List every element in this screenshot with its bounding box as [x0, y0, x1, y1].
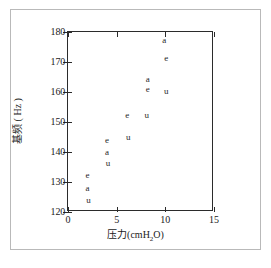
x-tick-label-0: 0 — [66, 215, 71, 225]
data-point-u-13: u — [164, 86, 169, 95]
y-tick-inner-140 — [68, 152, 72, 153]
x-tick-label-5: 5 — [114, 215, 119, 225]
data-point-a-1: a — [85, 184, 89, 193]
x-tick-0 — [68, 207, 69, 212]
x-tick-label-10: 10 — [160, 215, 170, 225]
x-tick-15 — [214, 207, 215, 212]
y-tick-label-150: 150 — [51, 117, 65, 127]
y-tick-label-140: 140 — [51, 147, 65, 157]
y-tick-inner-120 — [68, 212, 72, 213]
data-point-u-10: u — [145, 110, 150, 119]
x-tick-top-5 — [117, 32, 118, 37]
y-tick-label-120: 120 — [51, 207, 65, 217]
x-axis-label: 压力(cmH2O) — [0, 230, 271, 243]
y-tick-inner-160 — [68, 92, 72, 93]
chart-figure: 基频 ( Hz ) 120130140150160170180 051015 e… — [0, 0, 271, 268]
data-point-e-9: e — [146, 85, 150, 94]
data-point-a-4: a — [105, 148, 109, 157]
y-tick-inner-150 — [68, 122, 72, 123]
data-point-a-8: a — [146, 74, 150, 83]
data-point-e-6: e — [125, 110, 129, 119]
data-point-u-2: u — [86, 196, 91, 205]
x-axis-label-unit-post: O) — [153, 229, 164, 240]
data-point-e-0: e — [85, 170, 89, 179]
data-point-u-7: u — [126, 133, 131, 142]
data-point-u-5: u — [106, 158, 111, 167]
x-tick-10 — [165, 207, 166, 212]
x-tick-top-15 — [214, 32, 215, 37]
data-point-e-12: e — [164, 53, 168, 62]
y-axis-label: 基频 ( Hz ) — [13, 98, 23, 144]
y-tick-label-180: 180 — [51, 27, 65, 37]
plot-area: 120130140150160170180 051015 eaueaueuaeu… — [67, 31, 213, 211]
y-tick-label-160: 160 — [51, 87, 65, 97]
x-axis-label-main: 压力 — [107, 229, 127, 240]
x-tick-top-0 — [68, 32, 69, 37]
x-axis-label-unit-pre: (cmH — [127, 229, 150, 240]
y-tick-inner-170 — [68, 62, 72, 63]
x-tick-label-15: 15 — [209, 215, 219, 225]
x-tick-5 — [117, 207, 118, 212]
y-tick-label-170: 170 — [51, 57, 65, 67]
data-point-a-11: a — [162, 35, 166, 44]
y-tick-inner-130 — [68, 182, 72, 183]
data-point-e-3: e — [105, 136, 109, 145]
y-tick-label-130: 130 — [51, 177, 65, 187]
